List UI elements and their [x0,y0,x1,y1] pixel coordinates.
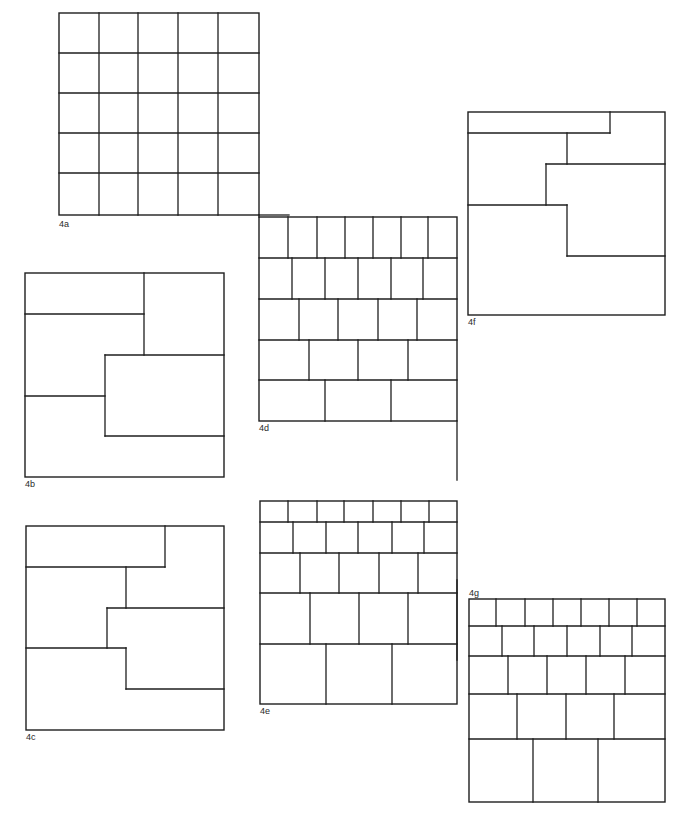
figure-4g [469,599,665,802]
figure-label-4b: 4b [25,480,35,489]
figure-label-4d: 4d [259,424,269,433]
figure-label-4f: 4f [468,318,476,327]
figure-frame [26,526,224,730]
figure-label-4g: 4g [469,589,479,598]
figure-label-4c: 4c [26,733,36,742]
figure-frame [59,13,259,215]
figure-4e [260,501,457,704]
figure-4d [259,217,457,421]
figure-label-4a: 4a [59,220,69,229]
figure-4a [59,13,259,215]
figure-4f [468,112,665,315]
figure-frame [25,273,224,477]
figure-4c [26,526,224,730]
tiling-diagrams [0,0,687,825]
figure-label-4e: 4e [260,707,270,716]
figure-4b [25,273,224,477]
figure-frame [259,217,457,421]
figure-plate: 4a4d4f4b4c4e4g [0,0,687,825]
